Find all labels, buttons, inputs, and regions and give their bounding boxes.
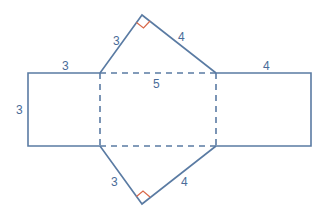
right-angle-marker-bottom [137,191,151,197]
right-angle-marker-top [137,21,151,28]
label-bottom-right-leg: 4 [181,175,188,189]
right-rectangle [216,73,311,146]
label-hypotenuse: 5 [153,77,160,91]
label-bottom-left-leg: 3 [111,175,118,189]
label-right-rect-top: 4 [263,59,270,73]
label-top-left-leg: 3 [113,34,120,48]
left-square [28,73,100,146]
label-left-rect-side: 3 [16,103,23,117]
label-left-rect-top: 3 [62,59,69,73]
net-svg: 3 4 3 3 5 4 3 4 [0,0,328,217]
label-top-right-leg: 4 [178,30,185,44]
prism-net-diagram: 3 4 3 3 5 4 3 4 [0,0,328,217]
